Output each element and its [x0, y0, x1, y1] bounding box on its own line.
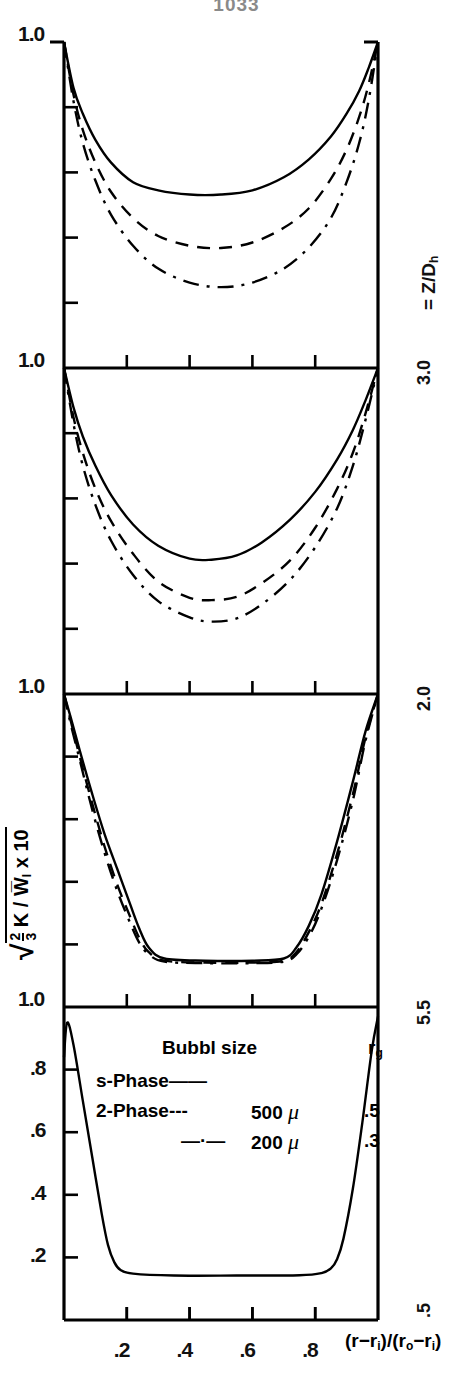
- legend-dash-1: ---: [169, 1100, 188, 1121]
- panel-4-z-label: .5: [414, 1303, 435, 1318]
- legend-name-0: s-Phase: [96, 1070, 169, 1091]
- y-axis-title-subscript: l: [20, 874, 34, 877]
- legend-row-2-phase-500: 2-Phase--- 500 μ .5: [96, 1098, 376, 1128]
- y-axis-title-symbol: K / W̅: [10, 877, 32, 927]
- legend-label-200: —·—: [181, 1131, 225, 1150]
- curve-p1-dashdot: [64, 42, 378, 287]
- legend-name-1: 2-Phase: [96, 1100, 169, 1121]
- legend-size-1: 500 μ: [251, 1101, 299, 1123]
- legend-size-value-1: 500: [251, 1102, 283, 1123]
- curve-p1-solid: [64, 42, 378, 195]
- legend-size-value-2: 200: [251, 1132, 283, 1153]
- curve-p3-solid: [64, 694, 378, 961]
- legend-row-200: —·— 200 μ .3: [96, 1128, 376, 1158]
- y-top-label-panel-4: 1.0: [18, 987, 44, 1011]
- panel-2-z-label: 2.0: [414, 686, 435, 711]
- x-axis-title: (r−ri)/(ro−ri): [345, 1330, 441, 1353]
- legend-label-2-phase: 2-Phase---: [96, 1101, 188, 1120]
- figure-chart: [0, 0, 473, 1387]
- legend-header-rg: rg: [368, 1038, 383, 1059]
- legend-dash-2: —·—: [181, 1130, 225, 1151]
- legend-rg-2: .3: [364, 1131, 380, 1150]
- legend-header-row: Bubbl size rg: [96, 1038, 376, 1068]
- legend-row-s-phase: s-Phase——: [96, 1068, 376, 1098]
- curve-p2-dashed: [64, 368, 378, 600]
- panel-side-title: = Z/Dh: [418, 256, 441, 310]
- legend-label-s-phase: s-Phase——: [96, 1071, 207, 1090]
- y-top-label-panel-2: 1.0: [18, 348, 44, 372]
- legend-rg-1: .5: [364, 1101, 380, 1120]
- x-axis-sub-o: o: [406, 1339, 413, 1353]
- curve-p2-solid: [64, 368, 378, 560]
- panel-3-z-label: 5.5: [414, 1000, 435, 1025]
- x-tick-label-1: .4: [177, 1338, 193, 1362]
- y-axis-title-body: 23 K / W̅l x 10: [5, 827, 38, 942]
- radical-sign: √: [6, 944, 40, 960]
- y-top-label-panel-3: 1.0: [18, 674, 44, 698]
- x-tick-label-0: .2: [114, 1338, 130, 1362]
- x-tick-label-3: .8: [302, 1338, 318, 1362]
- y-tick-label-p6: .6: [30, 1118, 46, 1142]
- fraction-numerator: 2: [8, 933, 22, 941]
- panel-1-z-label: 3.0: [414, 360, 435, 385]
- y-tick-label-p2: .2: [30, 1243, 46, 1267]
- panel-side-title-text: = Z/D: [418, 263, 439, 310]
- panel-1-curves: [64, 42, 378, 287]
- legend-dash-0: ——: [169, 1070, 207, 1091]
- legend-size-2: 200 μ: [251, 1131, 299, 1153]
- panel-side-title-subscript: h: [427, 256, 441, 263]
- y-axis-title-tail: x 10: [10, 829, 32, 873]
- y-tick-label-p4: .4: [30, 1181, 46, 1205]
- x-axis-sub-i1: i: [377, 1339, 380, 1353]
- panel-3-curves: [64, 694, 378, 963]
- x-tick-label-2: .6: [239, 1338, 255, 1362]
- legend-header-rg-subscript: g: [375, 1046, 382, 1060]
- curve-p3-dashdot: [64, 694, 378, 963]
- panel-2-curves: [64, 368, 378, 622]
- x-axis-sub-i2: i: [432, 1339, 435, 1353]
- y-tick-label-p8: .8: [30, 1056, 46, 1080]
- y-top-label-panel-1: 1.0: [18, 22, 44, 46]
- fraction-denominator: 3: [22, 933, 38, 941]
- curve-p3-dashed: [64, 694, 378, 963]
- legend-unit-1: μ: [288, 1099, 299, 1124]
- legend-unit-2: μ: [288, 1129, 299, 1154]
- y-axis-title: √23 K / W̅l x 10: [2, 827, 39, 960]
- two-thirds-fraction: 23: [8, 933, 38, 941]
- legend-header-bubble-size: Bubbl size: [162, 1038, 257, 1057]
- legend: Bubbl size rg s-Phase—— 2-Phase--- 500 μ…: [96, 1038, 376, 1158]
